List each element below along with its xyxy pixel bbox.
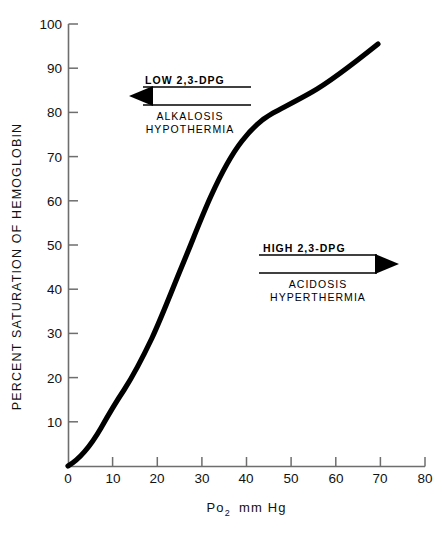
x-tick-label: 20 bbox=[140, 471, 174, 486]
x-tick-label: 0 bbox=[51, 471, 85, 486]
x-tick-label: 40 bbox=[229, 471, 263, 486]
annotation-left-line3: HYPOTHERMIA bbox=[129, 123, 251, 135]
x-axis-title-units: mm Hg bbox=[239, 500, 286, 515]
x-tick-label: 70 bbox=[363, 471, 397, 486]
oxyhemoglobin-dissociation-chart: PERCENT SATURATION OF HEMOGLOBIN bbox=[0, 0, 442, 533]
y-axis-ticks bbox=[69, 24, 79, 422]
annotation-right-line3: HYPERTHERMIA bbox=[259, 291, 377, 303]
x-axis-title: Po2 mm Hg bbox=[68, 500, 425, 518]
y-tick-label: 30 bbox=[28, 326, 62, 341]
x-tick-label: 10 bbox=[96, 471, 130, 486]
x-tick-label: 30 bbox=[185, 471, 219, 486]
annotation-left-shift: LOW 2,3-DPG ALKALOSIS HYPOTHERMIA bbox=[129, 74, 251, 135]
x-axis-title-base: Po bbox=[207, 500, 225, 515]
y-tick-label: 100 bbox=[28, 17, 62, 32]
y-tick-label: 50 bbox=[28, 238, 62, 253]
annotation-left-line2: ALKALOSIS bbox=[129, 110, 251, 122]
annotation-left-line1: LOW 2,3-DPG bbox=[145, 74, 251, 86]
x-tick-label: 50 bbox=[274, 471, 308, 486]
x-tick-label: 60 bbox=[319, 471, 353, 486]
y-tick-label: 20 bbox=[28, 371, 62, 386]
annotation-right-line1: HIGH 2,3-DPG bbox=[263, 242, 399, 254]
y-tick-label: 70 bbox=[28, 150, 62, 165]
x-axis-title-subscript: 2 bbox=[225, 508, 230, 518]
y-tick-label: 60 bbox=[28, 194, 62, 209]
x-axis-ticks bbox=[113, 457, 425, 467]
annotation-right-line2: ACIDOSIS bbox=[259, 278, 377, 290]
y-tick-label: 90 bbox=[28, 61, 62, 76]
y-tick-label: 80 bbox=[28, 105, 62, 120]
annotation-right-shift: HIGH 2,3-DPG ACIDOSIS HYPERTHERMIA bbox=[259, 242, 399, 303]
y-tick-label: 10 bbox=[28, 415, 62, 430]
x-tick-label: 80 bbox=[408, 471, 442, 486]
right-arrow-icon bbox=[259, 254, 399, 276]
left-arrow-icon bbox=[129, 86, 251, 108]
y-tick-label: 40 bbox=[28, 282, 62, 297]
